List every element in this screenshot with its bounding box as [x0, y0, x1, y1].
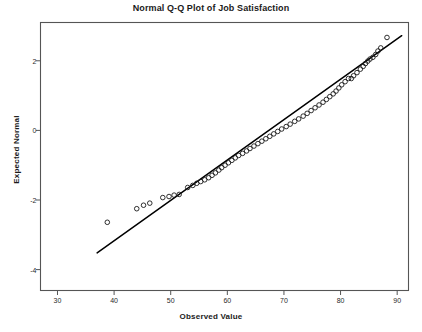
y-tick-label: 0 — [21, 127, 37, 134]
qq-plot-figure: Normal Q-Q Plot of Job Satisfaction Expe… — [0, 0, 422, 332]
x-tick-label: 40 — [110, 297, 118, 304]
y-tick-label: 2 — [21, 57, 37, 64]
plot-frame — [41, 23, 409, 291]
x-tick-label: 90 — [393, 297, 401, 304]
plot-canvas — [0, 0, 422, 332]
x-tick-label: 30 — [54, 297, 62, 304]
x-axis-title: Observed Value — [0, 312, 422, 321]
x-tick-label: 60 — [223, 297, 231, 304]
x-tick-label: 50 — [167, 297, 175, 304]
x-tick-label: 70 — [280, 297, 288, 304]
y-axis-title: Expected Normal — [12, 90, 21, 210]
x-tick-label: 80 — [337, 297, 345, 304]
y-tick-label: -4 — [21, 266, 37, 273]
y-tick-label: -2 — [21, 197, 37, 204]
